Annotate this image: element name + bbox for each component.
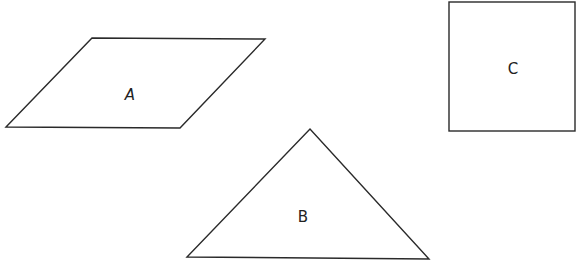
triangle-outline — [187, 129, 429, 259]
shape-a-parallelogram: A — [6, 38, 265, 128]
label-c: C — [508, 60, 518, 78]
shape-b-triangle: B — [187, 129, 429, 259]
parallelogram-outline — [6, 38, 265, 128]
label-b: B — [298, 208, 308, 226]
label-a: A — [124, 86, 135, 104]
shape-c-square: C — [449, 2, 575, 131]
shapes-diagram: A B C — [0, 0, 577, 266]
